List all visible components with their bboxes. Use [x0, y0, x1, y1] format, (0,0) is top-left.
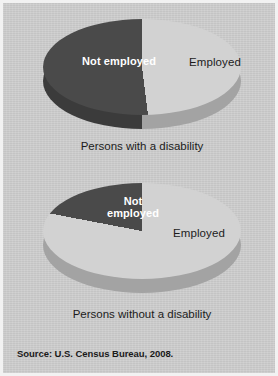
- chart-caption-without-disability: Persons without a disability: [3, 295, 278, 320]
- slice-label-employed: Employed: [173, 227, 225, 240]
- pie-chart-persons-without-disability: Not employed Employed Persons without a …: [3, 177, 278, 320]
- figure-panel: Not employed Employed Persons with a dis…: [0, 0, 278, 376]
- chart-caption-with-disability: Persons with a disability: [3, 133, 278, 152]
- pie-chart-persons-with-disability: Not employed Employed Persons with a dis…: [3, 11, 278, 152]
- slice-label-not-employed: Not employed: [73, 55, 165, 67]
- source-note: Source: U.S. Census Bureau, 2008.: [17, 348, 173, 359]
- slice-label-employed: Employed: [189, 56, 241, 69]
- slice-label-not-employed: Not employed: [95, 195, 171, 220]
- pie-stage: Not employed Employed: [37, 177, 247, 295]
- pie-stage: Not employed Employed: [37, 11, 247, 133]
